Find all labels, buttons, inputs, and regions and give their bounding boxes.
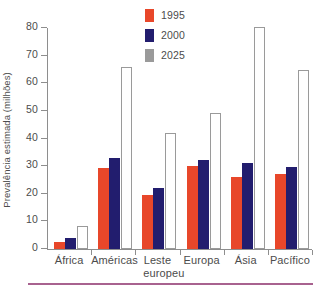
bar-1995 [142,195,153,249]
y-tick-60: 60 [41,82,47,83]
y-tick-label-80: 80 [26,20,38,32]
bar-2000 [198,160,209,250]
bar-2025 [121,67,132,249]
bar-2000 [286,167,297,249]
bar-group [275,28,309,249]
y-tick-label-70: 70 [26,48,38,60]
bar-2025 [77,226,88,249]
category-label-line2: europeu [143,267,179,279]
legend-label-2025: 2025 [161,49,185,62]
y-tick-30: 30 [41,165,47,166]
chart-legend: 1995 2000 2025 [145,9,185,62]
bar-2000 [65,238,76,249]
bar-2025 [254,27,265,249]
bar-group [54,28,88,249]
chart-figure: 1995 2000 2025 Prevalência estimada (mil… [0,0,326,296]
legend-swatch-1995 [145,9,154,22]
y-axis-line [47,28,48,250]
legend-item-1995: 1995 [145,9,185,22]
bar-2000 [153,188,164,249]
y-tick-0: 0 [41,248,47,249]
legend-swatch-2025 [145,49,154,62]
category-label: Ásia [224,254,268,266]
footer-divider [28,283,313,285]
y-tick-10: 10 [41,220,47,221]
figure-caption [28,287,318,296]
y-tick-label-20: 20 [26,186,38,198]
bar-group [187,28,221,249]
bar-2000 [242,163,253,249]
bar-1995 [275,174,286,249]
bar-1995 [187,166,198,249]
y-tick-label-10: 10 [26,213,38,225]
bar-group [231,28,265,249]
category-label: Europa [180,254,224,266]
bar-1995 [231,177,242,249]
y-tick-40: 40 [41,138,47,139]
legend-label-2000: 2000 [161,29,185,42]
y-tick-label-0: 0 [32,241,38,253]
y-tick-70: 70 [41,55,47,56]
y-tick-label-40: 40 [26,131,38,143]
category-label: Lesteeuropeu [135,254,179,279]
bar-2025 [210,113,221,249]
y-tick-label-30: 30 [26,158,38,170]
bar-2025 [165,133,176,249]
y-tick-20: 20 [41,193,47,194]
bar-group [98,28,132,249]
y-tick-label-60: 60 [26,75,38,87]
legend-item-2000: 2000 [145,29,185,42]
bar-2025 [298,70,309,249]
bar-1995 [98,168,109,249]
y-axis-title: Prevalência estimada (milhões) [1,52,15,228]
y-tick-label-50: 50 [26,103,38,115]
category-label: Américas [91,254,135,266]
bar-1995 [54,242,65,249]
bar-2000 [109,158,120,249]
y-tick-80: 80 [41,27,47,28]
y-tick-50: 50 [41,110,47,111]
x-tick [312,250,313,255]
category-label: Pacífico [268,254,312,266]
legend-label-1995: 1995 [161,9,185,22]
category-label: África [47,254,91,266]
legend-item-2025: 2025 [145,49,185,62]
legend-swatch-2000 [145,29,154,42]
